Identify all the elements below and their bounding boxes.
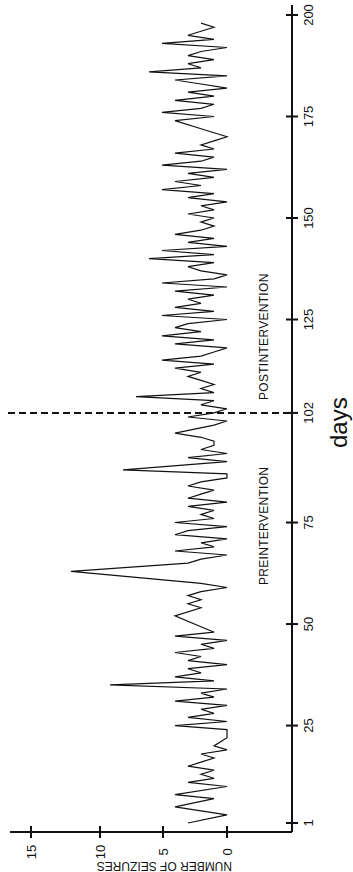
x-axis-ticks: 1255075102125150175200 [286,4,316,826]
y-axis-label: NUMBER OF SEIZURES [97,859,232,872]
seizure-line-chart: 1255075102125150175200 051015 PREINTERVE… [0,0,353,872]
x-tick-label: 200 [301,4,316,26]
seizure-series-line [71,23,227,823]
postintervention-label: POSTINTERVENTION [257,273,271,400]
x-tick-label: 75 [301,515,316,529]
x-tick-label: 1 [301,819,316,826]
x-tick-label: 175 [301,106,316,128]
y-axis-ticks: 051015 [24,826,235,859]
x-tick-label: 50 [301,617,316,631]
x-tick-label: 150 [301,207,316,229]
y-tick-label: 0 [220,848,235,855]
x-axis-label: days [325,397,352,448]
preintervention-label: PREINTERVENTION [257,467,271,585]
x-tick-label: 102 [301,402,316,424]
x-tick-label: 125 [301,309,316,331]
x-tick-label: 25 [301,718,316,732]
y-tick-label: 15 [24,845,39,859]
y-tick-label: 5 [156,848,171,855]
y-tick-label: 10 [93,845,108,859]
